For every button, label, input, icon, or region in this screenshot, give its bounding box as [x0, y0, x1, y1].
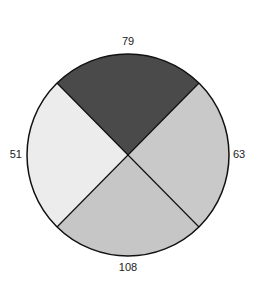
slice-label-right: 63 — [233, 148, 245, 160]
slice-label-left: 51 — [10, 148, 22, 160]
slice-label-top: 79 — [122, 35, 134, 47]
pie-chart: 79 63 108 51 — [0, 0, 262, 300]
slice-label-bottom: 108 — [119, 261, 137, 273]
